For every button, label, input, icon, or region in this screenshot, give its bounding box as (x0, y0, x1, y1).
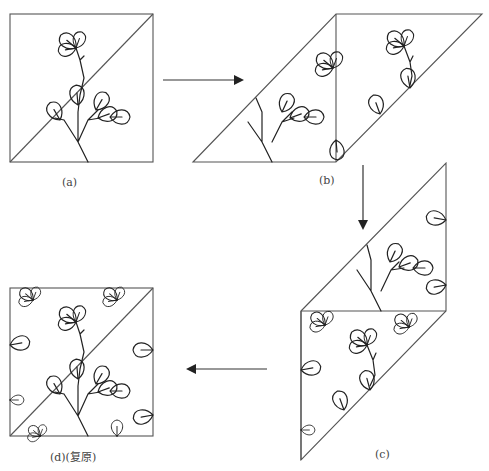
panel-d (9, 285, 154, 442)
arrow-left (186, 364, 267, 374)
panel-b (193, 14, 482, 162)
label-a: (a) (62, 176, 77, 189)
label-b: (b) (319, 174, 335, 187)
arrow-right-1 (163, 75, 244, 85)
panel-c (300, 163, 447, 460)
pattern-transformation-diagram (0, 0, 489, 471)
label-d: (d)(复原) (50, 448, 96, 464)
arrow-down (358, 165, 368, 230)
panel-a (10, 14, 153, 162)
plant-a (44, 30, 130, 162)
label-c: (c) (375, 448, 390, 461)
plant-b (248, 28, 417, 162)
plant-c (300, 210, 447, 435)
